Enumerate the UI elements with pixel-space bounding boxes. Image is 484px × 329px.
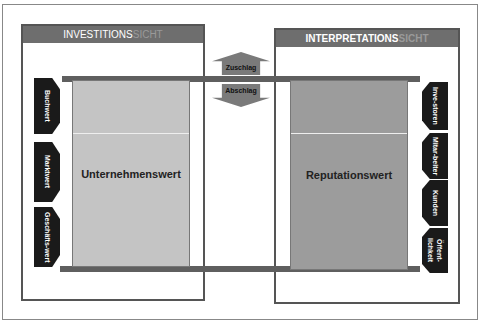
reputationswert-box: Reputationswert [290, 80, 408, 270]
interpretationssicht-header: INTERPRETATIONSSICHT [276, 30, 458, 47]
tag-marktwert: Marktwert [34, 142, 60, 202]
unternehmenswert-label: Unternehmenswert [81, 168, 181, 180]
tag-mitarbeiter: Mitar-beiter [422, 133, 448, 179]
investitionssicht-header: INVESTITIONSSICHT [23, 26, 203, 43]
tag-investoren: Inve-storen [422, 82, 448, 130]
tag-geschaeftswert: Geschäfts-wert [34, 207, 60, 267]
tag-kunden: Kunden [422, 180, 448, 226]
unternehmenswert-box: Unternehmenswert [72, 80, 190, 267]
reputationswert-label: Reputationswert [306, 169, 392, 181]
tag-oeffentlichkeit: Öffent-lichkeit [422, 228, 448, 273]
tag-buchwert: Buchwert [34, 78, 60, 134]
